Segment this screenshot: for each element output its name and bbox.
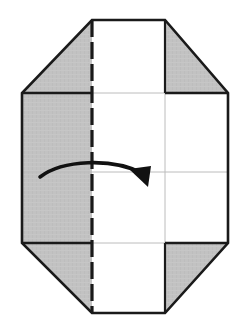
origami-diagram bbox=[0, 0, 248, 336]
diagram-canvas: Octagonal paper with vertical fold line … bbox=[0, 0, 248, 336]
